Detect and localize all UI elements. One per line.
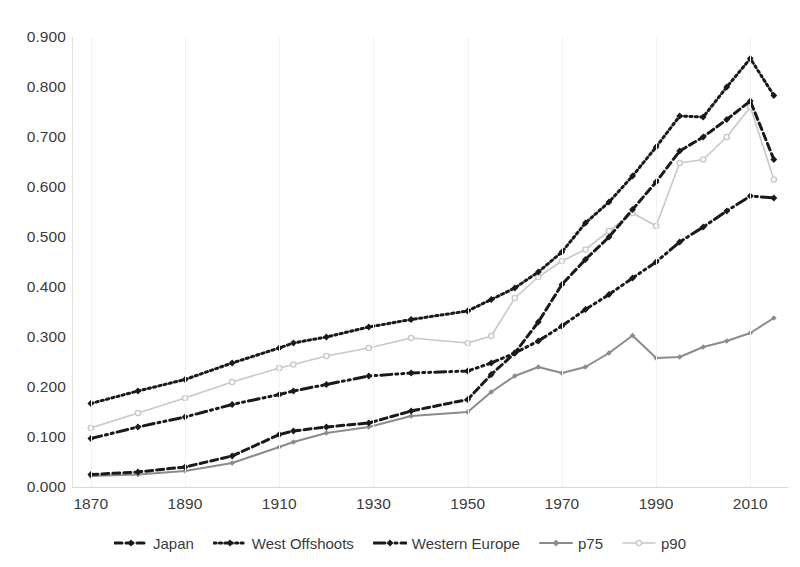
data-point — [771, 177, 776, 182]
data-point — [677, 160, 682, 165]
series-line — [91, 101, 774, 475]
x-tick-label: 1890 — [168, 495, 203, 513]
data-point — [135, 424, 142, 431]
y-tick-label: 0.800 — [4, 78, 66, 96]
data-point — [290, 340, 297, 347]
data-point — [135, 388, 142, 395]
data-point — [229, 460, 235, 466]
y-tick-label: 0.500 — [4, 228, 66, 246]
legend-label: Western Europe — [412, 536, 520, 551]
data-point — [323, 334, 330, 341]
legend-swatch-dashdot — [373, 537, 407, 549]
gridline — [468, 37, 469, 487]
data-point — [365, 373, 372, 380]
chart-legend: JapanWest OffshootsWestern Europep75p90 — [0, 528, 800, 558]
data-point — [290, 428, 297, 435]
legend-swatch-dashed — [114, 537, 148, 549]
data-point — [365, 324, 372, 331]
legend-item-western-europe[interactable]: Western Europe — [373, 536, 520, 551]
y-tick-label: 0.000 — [4, 478, 66, 496]
gridline — [656, 37, 657, 487]
y-tick-label: 0.100 — [4, 428, 66, 446]
data-point — [291, 439, 297, 445]
data-point — [366, 345, 371, 350]
legend-swatch-solid — [539, 537, 573, 549]
data-point — [724, 338, 730, 344]
line-chart: 0.0000.1000.2000.3000.4000.5000.6000.700… — [0, 0, 800, 567]
data-point — [724, 134, 729, 139]
data-point — [489, 333, 494, 338]
y-tick-label: 0.700 — [4, 128, 66, 146]
data-point — [536, 364, 542, 370]
data-point — [324, 353, 329, 358]
data-point — [701, 157, 706, 162]
x-tick-label: 1990 — [639, 495, 674, 513]
data-point — [408, 370, 415, 377]
data-point — [229, 401, 236, 408]
data-point — [409, 335, 414, 340]
x-axis-line — [72, 487, 788, 488]
legend-item-japan[interactable]: Japan — [114, 536, 194, 551]
y-tick-label: 0.200 — [4, 378, 66, 396]
x-axis: 18701890191019301950197019902010 — [0, 495, 800, 521]
legend-item-west-offshoots[interactable]: West Offshoots — [213, 536, 354, 551]
y-tick-label: 0.300 — [4, 328, 66, 346]
x-tick-label: 2010 — [733, 495, 768, 513]
plot-area — [72, 37, 788, 487]
y-tick-label: 0.600 — [4, 178, 66, 196]
series-line — [91, 318, 774, 476]
legend-swatch-dotted — [213, 537, 247, 549]
series-line — [91, 107, 774, 428]
data-point — [700, 344, 706, 350]
x-tick-label: 1970 — [544, 495, 579, 513]
gridline — [279, 37, 280, 487]
x-tick-label: 1910 — [262, 495, 297, 513]
data-point — [290, 388, 297, 395]
data-point — [408, 408, 415, 415]
gridline — [373, 37, 374, 487]
x-tick-label: 1930 — [356, 495, 391, 513]
data-point — [230, 379, 235, 384]
x-tick-label: 1950 — [450, 495, 485, 513]
data-point — [135, 410, 140, 415]
data-point — [229, 360, 236, 367]
series-p90 — [88, 104, 776, 430]
series-west-offshoots — [87, 55, 777, 407]
series-line — [91, 59, 774, 404]
data-point — [583, 247, 588, 252]
data-point — [323, 424, 330, 431]
gridline — [750, 37, 751, 487]
gridline — [91, 37, 92, 487]
data-point — [323, 381, 330, 388]
data-point — [291, 362, 296, 367]
legend-item-p90[interactable]: p90 — [622, 536, 686, 551]
data-point — [677, 354, 683, 360]
x-tick-label: 1870 — [73, 495, 108, 513]
legend-item-p75[interactable]: p75 — [539, 536, 603, 551]
y-tick-label: 0.400 — [4, 278, 66, 296]
y-tick-label: 0.900 — [4, 28, 66, 46]
data-point — [770, 195, 777, 202]
series-canvas — [72, 37, 788, 487]
legend-swatch-solid-light — [622, 537, 656, 549]
legend-label: Japan — [153, 536, 194, 551]
series-japan — [87, 98, 777, 478]
legend-label: p75 — [578, 536, 603, 551]
gridline — [562, 37, 563, 487]
data-point — [512, 295, 517, 300]
y-axis: 0.0000.1000.2000.3000.4000.5000.6000.700… — [0, 0, 66, 567]
legend-label: p90 — [661, 536, 686, 551]
data-point — [408, 316, 415, 323]
gridline — [185, 37, 186, 487]
legend-label: West Offshoots — [252, 536, 354, 551]
data-point — [324, 430, 330, 436]
